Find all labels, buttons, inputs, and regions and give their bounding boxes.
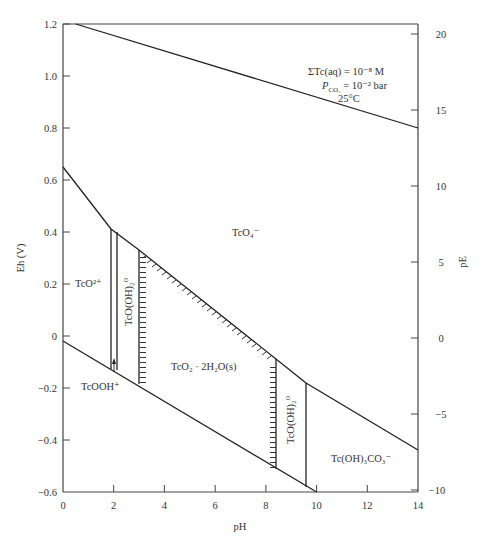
hatch-right — [270, 365, 276, 469]
svg-text:1.2: 1.2 — [44, 19, 57, 30]
svg-text:12: 12 — [362, 500, 373, 511]
y-axis-title: Eh (V) — [15, 243, 27, 272]
svg-text:−0.4: −0.4 — [38, 435, 58, 446]
svg-text:PCO₂ = 10⁻² bar: PCO₂ = 10⁻² bar — [321, 80, 387, 94]
x-axis-labels: 0 2 4 6 8 10 12 14 — [60, 500, 424, 511]
svg-text:2: 2 — [111, 500, 116, 511]
svg-text:15: 15 — [436, 105, 447, 116]
svg-text:−10: −10 — [429, 485, 445, 496]
label-tco2plus: TcO²⁺ — [75, 278, 102, 289]
svg-text:0.2: 0.2 — [44, 279, 57, 290]
svg-text:0: 0 — [438, 333, 443, 344]
svg-text:6: 6 — [213, 500, 218, 511]
x-axis-ticks — [114, 485, 368, 492]
svg-text:−0.2: −0.2 — [38, 383, 57, 394]
region-labels: TcO₄⁻ TcO²⁺ TcOOH⁺ TcO₂ · 2H₂O(s) Tc(OH)… — [75, 227, 391, 465]
label-tco2: TcO₂ · 2H₂O(s) — [171, 361, 237, 373]
y2-axis-ticks — [411, 34, 418, 490]
label-tcooh: TcOOH⁺ — [81, 381, 120, 392]
label-carbonate: Tc(OH)₃CO₃⁻ — [331, 453, 391, 465]
svg-text:−5: −5 — [435, 409, 446, 420]
tco4-boundary — [63, 167, 418, 450]
y-axis-labels: 1.2 1.0 0.8 0.6 0.4 0.2 0 −0.2 −0.4 −0.6 — [38, 19, 58, 498]
hatch-left — [140, 256, 146, 384]
y2-axis-title: pE — [457, 256, 468, 268]
svg-text:0: 0 — [60, 500, 65, 511]
hatch-diagonal — [142, 256, 271, 359]
eh-ph-chart: 1.2 1.0 0.8 0.6 0.4 0.2 0 −0.2 −0.4 −0.6… — [0, 0, 486, 544]
svg-text:10: 10 — [311, 500, 322, 511]
y2-axis-labels: 20 15 10 5 0 −5 −10 — [429, 29, 447, 496]
svg-text:8: 8 — [263, 500, 268, 511]
x-axis-title: pH — [234, 521, 247, 532]
svg-text:0.8: 0.8 — [44, 123, 57, 134]
svg-text:−0.6: −0.6 — [38, 487, 57, 498]
label-tcooh2-left: TcO(OH)₂⁰ — [123, 278, 135, 326]
label-tcooh2-right: TcO(OH)₂⁰ — [285, 396, 297, 444]
svg-text:0: 0 — [52, 331, 57, 342]
svg-text:20: 20 — [436, 29, 447, 40]
svg-text:14: 14 — [413, 500, 424, 511]
svg-text:10: 10 — [436, 181, 447, 192]
svg-text:ΣTc(aq) = 10⁻⁸ M: ΣTc(aq) = 10⁻⁸ M — [308, 66, 385, 78]
svg-text:4: 4 — [162, 500, 168, 511]
svg-text:0.4: 0.4 — [44, 227, 58, 238]
svg-text:0.6: 0.6 — [44, 175, 57, 186]
svg-text:25°C: 25°C — [338, 93, 360, 104]
plot-frame — [63, 24, 418, 492]
svg-text:5: 5 — [438, 257, 443, 268]
arrow-head — [112, 358, 116, 364]
label-tco4: TcO₄⁻ — [232, 227, 259, 238]
svg-text:1.0: 1.0 — [44, 71, 57, 82]
y-axis-ticks — [63, 24, 70, 440]
